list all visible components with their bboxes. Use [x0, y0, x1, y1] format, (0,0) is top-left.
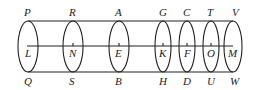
label-T: T [207, 6, 214, 18]
label-H: H [158, 75, 168, 87]
label-V: V [232, 6, 240, 18]
label-A: A [114, 6, 122, 18]
label-R: R [68, 6, 76, 18]
label-W: W [230, 75, 240, 87]
label-N: N [68, 47, 77, 59]
label-B: B [115, 75, 122, 87]
label-U: U [207, 75, 216, 87]
label-G: G [159, 6, 167, 18]
cylinder-diagram: P R A G C T V L N E K F O M Q S B H D U … [0, 0, 257, 90]
label-Q: Q [24, 75, 32, 87]
label-C: C [183, 6, 191, 18]
label-O: O [207, 47, 215, 59]
label-L: L [24, 47, 31, 59]
label-K: K [158, 47, 167, 59]
label-E: E [114, 47, 122, 59]
label-P: P [23, 6, 31, 18]
label-M: M [227, 47, 238, 59]
label-D: D [182, 75, 191, 87]
label-F: F [183, 47, 191, 59]
label-S: S [69, 75, 75, 87]
